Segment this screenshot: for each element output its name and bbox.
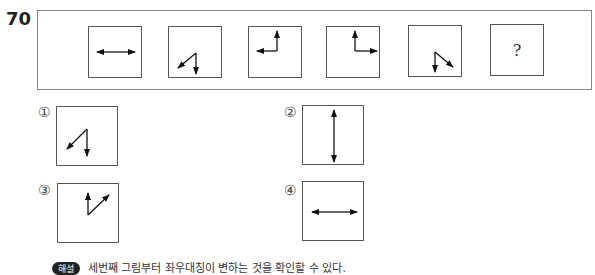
explanation: 해설세번째 그림부터 좌우대칭이 변하는 것을 확인할 수 있다. (52, 259, 346, 275)
sequence-figure-3 (248, 26, 302, 78)
option-2-label: ② (284, 104, 297, 120)
corner-arrow-up-right-icon (327, 27, 381, 79)
sequence-figure-4 (326, 26, 380, 78)
sequence-figure-unknown: ? (490, 24, 544, 76)
zigzag-arrow-down-left-icon (169, 27, 223, 79)
option-4-label: ④ (284, 182, 297, 198)
zigzag-arrow-down-left-icon (57, 107, 119, 167)
option-3-label: ③ (38, 182, 51, 198)
explanation-badge: 해설 (52, 262, 80, 275)
corner-arrow-left-up-icon (249, 27, 303, 79)
double-arrow-vertical-icon (303, 106, 365, 166)
option-4[interactable] (302, 181, 364, 241)
sequence-figure-2 (168, 26, 222, 78)
question-number: 70 (6, 8, 31, 29)
double-arrow-horizontal-icon (89, 27, 143, 79)
sequence-figure-1 (88, 26, 142, 78)
option-1[interactable] (56, 106, 118, 166)
sequence-box: ? (37, 10, 592, 90)
option-2[interactable] (302, 105, 364, 165)
sequence-figure-5 (408, 25, 462, 77)
question-mark: ? (491, 25, 543, 75)
explanation-text: 세번째 그림부터 좌우대칭이 변하는 것을 확인할 수 있다. (88, 262, 346, 275)
option-1-label: ① (38, 104, 51, 120)
v-arrow-up-up-right-icon (58, 184, 120, 244)
option-3[interactable] (57, 183, 119, 243)
zigzag-arrow-down-right-icon (409, 26, 463, 78)
double-arrow-horizontal-icon (303, 182, 365, 242)
